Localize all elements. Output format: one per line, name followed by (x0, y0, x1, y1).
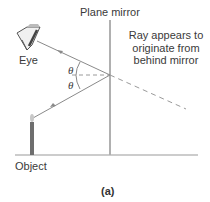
virtual-ray-note: Ray appears to originate from behind mir… (122, 29, 210, 67)
eye-icon (17, 24, 40, 50)
candle-flame-icon (30, 114, 34, 122)
reflected-ray-arrow-icon (57, 50, 63, 54)
note-line-1: Ray appears to (122, 29, 210, 42)
reflected-ray (37, 41, 110, 75)
note-line-2: originate from (122, 42, 210, 55)
eye-label: Eye (19, 54, 38, 66)
angle-lower-label: θ (68, 79, 73, 91)
candle-object (30, 122, 34, 155)
object-label: Object (15, 160, 47, 172)
mirror-label: Plane mirror (80, 6, 140, 18)
figure-caption: (a) (101, 185, 114, 197)
plane-mirror (109, 20, 111, 155)
incident-ray-arrow-icon (50, 103, 56, 107)
virtual-ray (110, 75, 186, 109)
angle-upper-label: θ (68, 64, 73, 76)
note-line-3: behind mirror (122, 54, 210, 67)
